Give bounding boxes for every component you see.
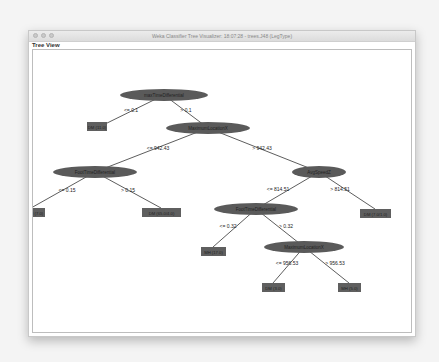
tree-node-split[interactable]: FootTimeDifferential [53,166,137,178]
node-label: AvgSpeedZ [307,170,331,175]
tree-node-split[interactable]: maxTimeDifferential [120,89,208,101]
tree-view-label: Tree View [32,41,60,49]
edge-label: <= 814.51 [267,186,290,192]
edge-label: <= 0.15 [59,187,76,193]
edge-label: > 0.1 [180,107,191,113]
tree-node-leaf[interactable]: DM (3.0) [262,283,285,292]
tree-node-leaf[interactable]: DM (11.0) [87,122,107,131]
node-label: FootTimeDifferential [236,207,276,212]
tree-node-leaf[interactable]: DM (65.0/4.0) [142,208,181,217]
title-bar[interactable]: Weka Classifier Tree Visualizer: 18:07:2… [29,31,415,42]
edge-label: <= 956.53 [276,260,299,266]
edge-label: > 0.15 [121,187,135,193]
leaf-label: MH (5.0) [341,286,358,291]
edge-label: > 942.43 [252,145,272,151]
window-title: Weka Classifier Tree Visualizer: 18:07:2… [29,31,415,41]
leaf-nodes: DM (11.0) MH (7.0) DM (65.0/4.0) DM (7.0… [33,122,391,292]
leaf-label: DM (3.0) [265,286,282,291]
edge-label: > 814.51 [330,186,350,192]
tree-diagram: <= 0.1 > 0.1 <= 942.43 > 942.43 <= 0.15 … [33,50,411,332]
node-label: MaximumLocationX [188,126,228,131]
tree-node-split[interactable]: MaximumLocationX [166,122,250,134]
node-label: FootTimeDifferential [75,170,115,175]
tree-node-split[interactable]: FootTimeDifferential [214,203,298,215]
leaf-label: DM (7.0/1.0) [364,212,388,217]
tree-node-split[interactable]: MaximumLocationX [264,241,344,253]
tree-node-leaf[interactable]: MH (5.0) [338,283,361,292]
tree-node-leaf[interactable]: MH (17.0) [201,247,226,256]
tree-canvas[interactable]: <= 0.1 > 0.1 <= 942.43 > 942.43 <= 0.15 … [32,49,412,333]
node-label: MaximumLocationX [284,245,324,250]
edge-label: > 956.53 [325,260,345,266]
edge-label: <= 0.32 [220,223,237,229]
tree-node-leaf[interactable]: DM (7.0/1.0) [360,209,391,218]
leaf-label: MH (7.0) [33,211,44,216]
tree-node-leaf[interactable]: MH (7.0) [33,208,45,217]
tree-visualizer-window: Weka Classifier Tree Visualizer: 18:07:2… [28,30,416,337]
edge-label: > 0.32 [279,223,293,229]
edge-label: <= 942.43 [147,145,170,151]
leaf-label: MH (17.0) [204,250,223,255]
edge-label: <= 0.1 [124,107,138,113]
split-nodes: maxTimeDifferential MaximumLocationX Foo… [53,89,346,253]
tree-node-split[interactable]: AvgSpeedZ [292,166,346,178]
node-label: maxTimeDifferential [144,93,184,98]
leaf-label: DM (65.0/4.0) [149,211,175,216]
leaf-label: DM (11.0) [88,125,107,130]
